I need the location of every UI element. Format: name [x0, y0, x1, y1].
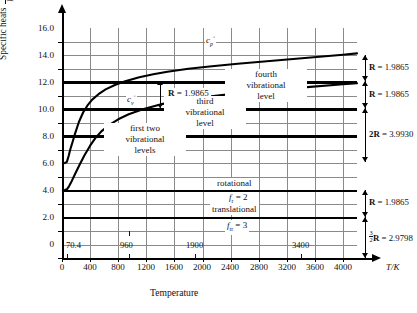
inner-temp-tick-1900 [195, 254, 196, 259]
bracket-2-arrow-up-icon [362, 81, 368, 86]
x-axis-line [62, 258, 374, 260]
y-axis-title-text: Specific heats [0, 8, 8, 60]
annotation-first-two-vibrational-levels: first two vibrational levels [104, 123, 186, 156]
y-tick-16: 16.0 [14, 24, 54, 33]
annotation-ftr: ftr = 3 [225, 220, 249, 235]
inner-temp-tick-70 [67, 254, 68, 259]
y-axis-cv-fraction: cv◦ kcal/kmol K [0, 0, 15, 4]
annotation-rotational: rotational [215, 178, 254, 189]
inner-temp-tick-960-upper [129, 231, 130, 236]
x-axis-unit-label: T/K [386, 262, 400, 272]
y-tick-4: 4.0 [14, 186, 54, 195]
bracket-5-arrow-down-icon [362, 253, 368, 258]
y-axis-title: Specific heats cv◦ kcal/kmol K or cp◦ kc… [0, 0, 15, 60]
inner-temp-label-3400: 3400 [292, 240, 309, 250]
curve-label-cp: cp◦ [205, 34, 216, 47]
y-tick-6: 6.0 [14, 159, 54, 168]
bracket-5-arrow-up-icon [362, 217, 368, 222]
y-axis-arrow-icon [58, 4, 66, 13]
bracket-3-arrow-up-icon [362, 108, 368, 113]
y-tick-2: 2.0 [14, 213, 54, 222]
y-tick-10: 10.0 [14, 105, 54, 114]
inner-temp-tick-960 [129, 254, 130, 259]
bracket-label-3: 2R = 3.9930 [369, 129, 413, 139]
inner-temp-tick-3400 [301, 254, 302, 259]
bracket-label-2: R = 1.9865 [369, 89, 409, 99]
inner-temp-label-70: 70.4 [66, 240, 81, 250]
bracket-bar-3 [365, 108, 366, 162]
x-tick-4000: 4000 [323, 262, 363, 272]
inner-r-arrow-down-icon [157, 104, 163, 108]
inner-temp-label-1900: 1900 [186, 240, 203, 250]
bracket-label-4: R = 1.9865 [369, 197, 409, 207]
annotation-translational: translational [210, 204, 259, 215]
y-tick-12: 12.0 [14, 78, 54, 87]
inner-temp-label-960: 960 [120, 240, 133, 250]
inner-r-arrow-up-icon [157, 81, 163, 85]
y-axis-denominator-cv: kcal/kmol K [6, 0, 15, 4]
bracket-4-arrow-up-icon [362, 190, 368, 195]
bracket-3-arrow-down-icon [362, 157, 368, 162]
y-tick-8: 8.0 [14, 132, 54, 141]
bracket-bar-5 [365, 217, 366, 258]
bracket-1-arrow-up-icon [362, 55, 368, 60]
plot-area: cp◦ cv◦ R = 1.9865 fourth vibrational le… [62, 28, 357, 258]
x-axis-title: Temperature [150, 287, 198, 298]
curve-label-cv: cv◦ [126, 93, 137, 106]
right-bracket-column: R = 1.9865 R = 1.9865 2R = 3.9930 R = 1.… [357, 28, 417, 258]
chart-root: Specific heats cv◦ kcal/kmol K or cp◦ kc… [0, 0, 417, 313]
y-tick-14: 14.0 [14, 51, 54, 60]
y-tick-0: 0 [14, 240, 54, 249]
bracket-label-1: R = 1.9865 [369, 62, 409, 72]
bracket-label-5: 3 2 R = 2.9798 [369, 230, 413, 244]
